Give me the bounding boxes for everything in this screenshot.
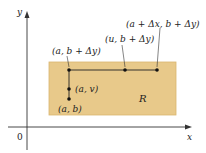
y-axis-arrow-icon	[25, 11, 30, 18]
label-a-v: (a, v)	[75, 84, 99, 94]
y-axis-label: y	[16, 7, 23, 17]
leader-adx-bdy	[157, 28, 160, 67]
x-axis-arrow-icon	[185, 125, 192, 130]
label-a-b: (a, b)	[58, 104, 82, 114]
point-a-bdy	[67, 68, 71, 72]
label-adx-bdy: (a + Δx, b + Δy)	[126, 19, 200, 29]
point-adx-bdy	[155, 68, 159, 72]
origin-label: 0	[17, 132, 23, 142]
x-axis-label: x	[187, 132, 192, 142]
point-u-bdy	[123, 68, 127, 72]
label-a-bdy: (a, b + Δy)	[52, 46, 101, 56]
label-u-bdy: (u, b + Δy)	[105, 34, 155, 44]
diagram-canvas: x y 0 (a, b + Δy) (u, b + Δy) (a + Δx, b…	[0, 0, 206, 153]
point-a-b	[67, 97, 71, 101]
point-a-v	[67, 87, 71, 91]
region-label: R	[138, 93, 147, 104]
